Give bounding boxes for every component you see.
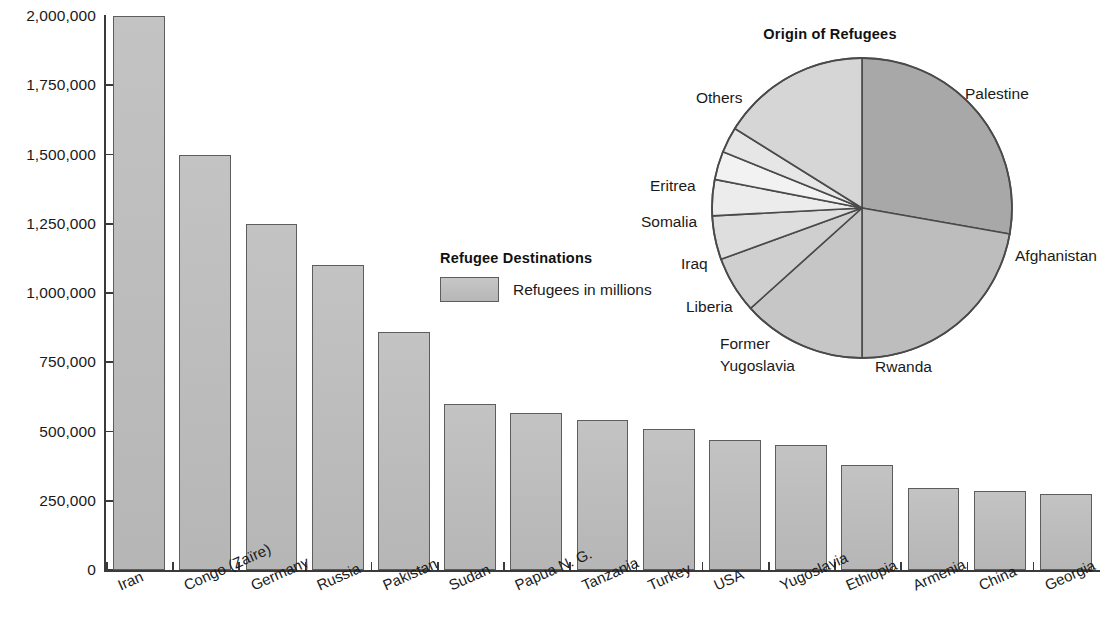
pie-label-others: Others	[696, 89, 743, 107]
y-axis-tick-label: 750,000	[0, 353, 96, 371]
pie-graphic	[620, 10, 1102, 400]
bar	[908, 488, 960, 570]
y-axis-tick-label: 1,500,000	[0, 146, 96, 164]
bar	[246, 224, 298, 570]
bar	[709, 440, 761, 570]
pie-label-former-yugoslavia-line1: Former	[720, 335, 770, 353]
x-axis-tickmark	[702, 562, 704, 571]
bar	[643, 429, 695, 570]
x-axis-tickmark	[503, 562, 505, 571]
x-axis-tickmark	[106, 562, 108, 571]
bar	[113, 16, 165, 570]
bar	[841, 465, 893, 570]
bar	[312, 265, 364, 570]
pie-label-eritrea: Eritrea	[650, 177, 696, 195]
pie-label-rwanda: Rwanda	[875, 358, 932, 376]
y-axis-tick-label: 250,000	[0, 492, 96, 510]
x-axis-tickmark	[371, 562, 373, 571]
y-axis-line	[104, 15, 106, 571]
y-axis-tick-label: 2,000,000	[0, 7, 96, 25]
pie-label-afghanistan: Afghanistan	[1015, 247, 1097, 265]
bar	[378, 332, 430, 570]
pie-label-iraq: Iraq	[681, 255, 708, 273]
x-axis-tickmark	[1033, 562, 1035, 571]
pie-label-somalia: Somalia	[641, 213, 697, 231]
pie-label-liberia: Liberia	[686, 298, 733, 316]
bar	[179, 155, 231, 571]
x-axis-tickmark	[172, 562, 174, 571]
pie-slice	[862, 208, 1010, 358]
y-axis-tick-label: 500,000	[0, 423, 96, 441]
pie-label-palestine: Palestine	[965, 85, 1029, 103]
bar	[974, 491, 1026, 570]
bar	[775, 445, 827, 570]
y-axis-tick-label: 0	[0, 561, 96, 579]
y-axis-tick-label: 1,750,000	[0, 76, 96, 94]
legend-swatch-icon	[440, 277, 499, 302]
pie-chart: Origin of Refugees Palestine Afghanistan…	[620, 10, 1102, 400]
x-axis-tickmark	[900, 562, 902, 571]
bar	[510, 413, 562, 570]
x-axis-tickmark	[768, 562, 770, 571]
y-axis-tick-label: 1,250,000	[0, 215, 96, 233]
bar	[444, 404, 496, 570]
chart-canvas: 2,000,0001,750,0001,500,0001,250,0001,00…	[0, 0, 1102, 627]
pie-label-former-yugoslavia-line2: Yugoslavia	[720, 357, 795, 375]
y-axis-tick-label: 1,000,000	[0, 284, 96, 302]
